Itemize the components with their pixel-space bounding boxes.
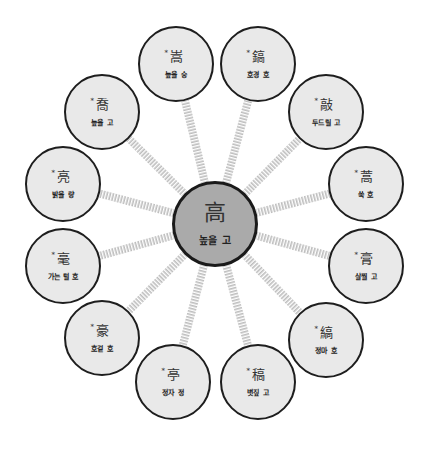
connector-10 xyxy=(99,190,175,217)
center-reading: 높을 고 xyxy=(199,232,231,247)
node-hanja: *嵩 xyxy=(170,50,183,63)
hanja-text: 膏 xyxy=(360,251,373,266)
node-reading: 호경 호 xyxy=(247,69,269,79)
node-hanja: *稿 xyxy=(252,368,265,381)
connector-3 xyxy=(256,190,331,217)
connector-2 xyxy=(242,136,302,196)
node-2: *敲두드릴 고 xyxy=(288,74,364,150)
node-hanja: *敲 xyxy=(320,98,333,111)
hanja-text: 稿 xyxy=(252,367,265,382)
node-9: *毫가는 털 호 xyxy=(25,228,101,304)
hanja-text: 亭 xyxy=(167,367,180,382)
connector-9 xyxy=(99,232,175,260)
star-marker: * xyxy=(52,252,56,259)
connector-7 xyxy=(179,265,208,347)
star-marker: * xyxy=(165,50,169,57)
node-1: *鎬호경 호 xyxy=(220,26,296,102)
hanja-text: 豪 xyxy=(96,323,109,338)
hanja-text: 毫 xyxy=(57,251,70,266)
hanja-text: 亮 xyxy=(57,169,70,184)
node-6: *稿볏짚 고 xyxy=(220,344,296,420)
node-3: *蒿쑥 호 xyxy=(328,146,404,222)
star-marker: * xyxy=(247,50,251,57)
hanja-text: 嵩 xyxy=(170,49,183,64)
node-reading: 살찔 고 xyxy=(355,271,377,281)
connector-5 xyxy=(242,252,303,315)
star-marker: * xyxy=(162,368,166,375)
star-marker: * xyxy=(52,170,56,177)
node-reading: 볏짚 고 xyxy=(247,387,269,397)
node-reading: 호걸 호 xyxy=(91,343,113,353)
hanja-text: 縞 xyxy=(320,325,333,340)
node-reading: 가는 털 호 xyxy=(48,271,79,281)
connector-1 xyxy=(222,100,252,184)
hanja-text: 蒿 xyxy=(360,169,373,184)
connector-4 xyxy=(255,232,330,260)
connector-0 xyxy=(181,100,209,183)
star-marker: * xyxy=(91,324,95,331)
node-11: *喬높을 고 xyxy=(64,74,140,150)
star-marker: * xyxy=(355,252,359,259)
node-reading: 정마 호 xyxy=(315,345,337,355)
star-marker: * xyxy=(355,170,359,177)
node-reading: 쑥 호 xyxy=(358,189,373,199)
node-hanja: *豪 xyxy=(96,324,109,337)
hanja-text: 敲 xyxy=(320,97,333,112)
center-hanja: 高 xyxy=(204,202,226,224)
node-hanja: *毫 xyxy=(57,252,70,265)
node-hanja: *膏 xyxy=(360,252,373,265)
hanja-text: 鎬 xyxy=(252,49,265,64)
node-0: *嵩높을 숭 xyxy=(138,26,214,102)
connector-8 xyxy=(126,252,188,314)
node-8: *豪호걸 호 xyxy=(64,300,140,376)
node-reading: 정자 정 xyxy=(162,387,184,397)
node-reading: 밝을 량 xyxy=(52,189,74,199)
connector-6 xyxy=(222,264,251,346)
node-hanja: *亮 xyxy=(57,170,70,183)
star-marker: * xyxy=(315,326,319,333)
node-10: *亮밝을 량 xyxy=(25,146,101,222)
node-hanja: *亭 xyxy=(167,368,180,381)
center-node: 高 높을 고 xyxy=(172,181,258,267)
node-hanja: *鎬 xyxy=(252,50,265,63)
star-marker: * xyxy=(315,98,319,105)
node-7: *亭정자 정 xyxy=(135,344,211,420)
hanja-radial-diagram: *嵩높을 숭 *鎬호경 호 *敲두드릴 고 *蒿쑥 호 *膏살찔 고 *縞정마 … xyxy=(0,0,427,450)
node-hanja: *蒿 xyxy=(360,170,373,183)
node-hanja: *縞 xyxy=(320,326,333,339)
star-marker: * xyxy=(91,98,95,105)
node-4: *膏살찔 고 xyxy=(328,228,404,304)
node-reading: 두드릴 고 xyxy=(312,117,340,127)
node-hanja: *喬 xyxy=(96,98,109,111)
node-5: *縞정마 호 xyxy=(288,302,364,378)
star-marker: * xyxy=(247,368,251,375)
node-reading: 높을 숭 xyxy=(165,69,187,79)
node-reading: 높을 고 xyxy=(91,117,113,127)
hanja-text: 喬 xyxy=(96,97,109,112)
connector-11 xyxy=(126,136,187,197)
